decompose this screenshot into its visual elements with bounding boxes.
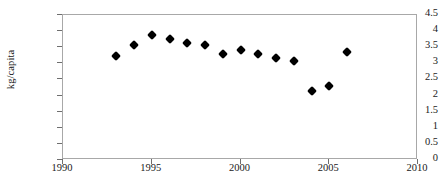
data-point [271, 53, 281, 63]
y-tick-mark [57, 62, 62, 63]
x-tick-mark [62, 159, 63, 164]
y-tick-label: 0.5 [392, 137, 438, 148]
y-tick-mark [57, 30, 62, 31]
y-tick-mark [57, 111, 62, 112]
x-tick-mark [240, 159, 241, 164]
x-tick-label: 2000 [210, 163, 270, 174]
data-point [165, 34, 175, 44]
plot-area [62, 14, 417, 159]
y-tick-label: 4 [392, 24, 438, 35]
data-point [253, 49, 263, 59]
x-tick-label: 1990 [32, 163, 92, 174]
y-tick-label: 3 [392, 56, 438, 67]
data-point [129, 40, 139, 50]
y-tick-mark [57, 127, 62, 128]
y-tick-label: 2 [392, 89, 438, 100]
y-tick-label: 3.5 [392, 40, 438, 51]
y-tick-label: 1.5 [392, 105, 438, 116]
y-tick-mark [57, 14, 62, 15]
y-tick-mark [57, 46, 62, 47]
x-tick-mark [417, 159, 418, 164]
data-point [147, 30, 157, 40]
data-point [200, 40, 210, 50]
data-point [182, 38, 192, 48]
data-point [218, 49, 228, 59]
y-tick-label: 4.5 [392, 8, 438, 19]
y-tick-label: 2.5 [392, 72, 438, 83]
x-tick-label: 2010 [387, 163, 443, 174]
data-point [307, 86, 317, 96]
y-tick-mark [57, 78, 62, 79]
data-point [342, 47, 352, 57]
x-tick-label: 1995 [121, 163, 181, 174]
y-tick-label: 1 [392, 121, 438, 132]
data-point [111, 51, 121, 61]
data-point [324, 81, 334, 91]
x-tick-label: 2005 [298, 163, 358, 174]
x-tick-mark [151, 159, 152, 164]
data-point [289, 56, 299, 66]
y-tick-mark [57, 95, 62, 96]
y-axis-title: kg/capita [5, 38, 16, 102]
data-point [236, 45, 246, 55]
x-tick-mark [328, 159, 329, 164]
y-tick-mark [57, 143, 62, 144]
